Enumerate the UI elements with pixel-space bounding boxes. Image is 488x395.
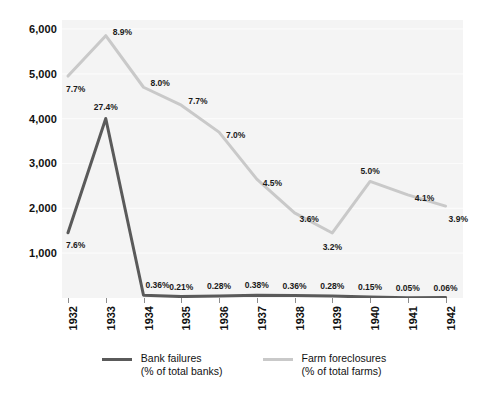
x-tick-mark	[68, 298, 69, 303]
point-value-label: 7.0%	[226, 130, 245, 140]
point-value-label: 3.9%	[449, 214, 468, 224]
x-tick-mark	[219, 298, 220, 303]
point-value-label: 0.36%	[282, 281, 306, 291]
point-value-label: 3.6%	[300, 214, 319, 224]
x-tick-label: 1940	[369, 306, 381, 330]
point-value-label: 0.28%	[320, 281, 344, 291]
x-axis: 1932193319341935193619371938193919401941…	[62, 298, 463, 358]
x-tick-mark	[106, 298, 107, 303]
legend-color-swatch	[102, 358, 132, 361]
point-value-label: 0.28%	[207, 281, 231, 291]
chart-legend: Bank failures(% of total banks)Farm fore…	[0, 352, 488, 390]
point-value-label: 0.36%	[146, 280, 170, 290]
point-value-label: 8.9%	[113, 27, 132, 37]
chart-container: 1,0002,0003,0004,0005,0006,000 193219331…	[0, 0, 488, 395]
point-value-label: 4.5%	[263, 178, 282, 188]
x-tick-label: 1932	[67, 306, 79, 330]
x-tick-mark	[144, 298, 145, 303]
point-value-label: 7.6%	[66, 240, 85, 250]
x-tick-mark	[181, 298, 182, 303]
y-tick-label: 4,000	[29, 113, 57, 125]
legend-label: Bank failures(% of total banks)	[141, 352, 223, 377]
x-tick-mark	[370, 298, 371, 303]
y-axis: 1,0002,0003,0004,0005,0006,000	[0, 0, 57, 320]
legend-color-swatch	[263, 358, 293, 361]
x-tick-label: 1941	[407, 306, 419, 330]
legend-series-sublabel: (% of total farms)	[302, 365, 387, 378]
y-tick-label: 5,000	[29, 68, 57, 80]
y-tick-label: 6,000	[29, 23, 57, 35]
x-tick-mark	[257, 298, 258, 303]
plot-area	[62, 20, 463, 298]
x-tick-label: 1939	[331, 306, 343, 330]
point-value-label: 0.05%	[396, 283, 420, 293]
point-value-label: 3.2%	[323, 242, 342, 252]
x-tick-label: 1942	[445, 306, 457, 330]
x-tick-mark	[295, 298, 296, 303]
x-tick-mark	[408, 298, 409, 303]
point-value-label: 0.21%	[169, 282, 193, 292]
x-tick-label: 1935	[180, 306, 192, 330]
x-tick-mark	[446, 298, 447, 303]
x-tick-label: 1933	[105, 306, 117, 330]
y-tick-label: 1,000	[29, 247, 57, 259]
point-value-label: 0.38%	[245, 280, 269, 290]
x-tick-label: 1937	[256, 306, 268, 330]
legend-series-name: Farm foreclosures	[302, 352, 387, 365]
point-value-label: 7.7%	[188, 96, 207, 106]
x-tick-label: 1934	[143, 306, 155, 330]
plot-lines	[62, 20, 463, 298]
legend-item-farm-foreclosures[interactable]: Farm foreclosures(% of total farms)	[263, 352, 387, 390]
point-value-label: 0.15%	[358, 282, 382, 292]
legend-series-name: Bank failures	[141, 352, 223, 365]
x-tick-mark	[332, 298, 333, 303]
point-value-label: 7.7%	[66, 84, 85, 94]
point-value-label: 4.1%	[415, 193, 434, 203]
point-value-label: 5.0%	[360, 166, 379, 176]
legend-item-bank-failures[interactable]: Bank failures(% of total banks)	[102, 352, 223, 390]
legend-label: Farm foreclosures(% of total farms)	[302, 352, 387, 377]
y-tick-label: 3,000	[29, 157, 57, 169]
x-tick-label: 1938	[294, 306, 306, 330]
legend-series-sublabel: (% of total banks)	[141, 365, 223, 378]
x-tick-label: 1936	[218, 306, 230, 330]
y-tick-label: 2,000	[29, 202, 57, 214]
point-value-label: 8.0%	[151, 78, 170, 88]
point-value-label: 0.06%	[434, 283, 458, 293]
point-value-label: 27.4%	[94, 102, 118, 112]
